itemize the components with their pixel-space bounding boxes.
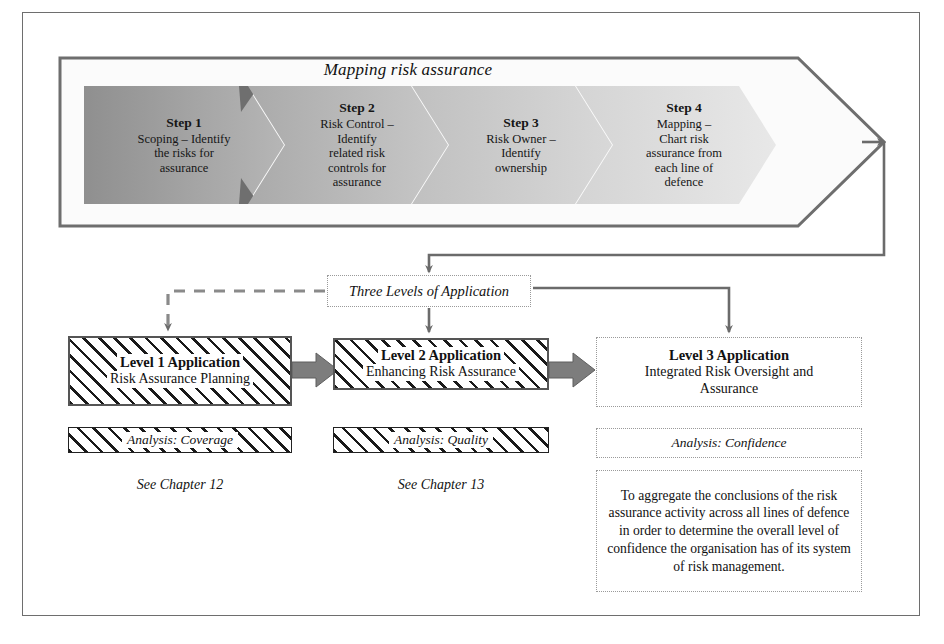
- step-3-line-3: ownership: [495, 161, 547, 176]
- band-title: Mapping risk assurance: [58, 60, 758, 80]
- step-4-line-3: assurance from: [646, 146, 722, 161]
- step-4-line-1: Mapping –: [657, 117, 712, 132]
- diagram-canvas: Mapping risk assurance Step 1 Scoping – …: [0, 0, 944, 644]
- level-1-chapter: See Chapter 12: [68, 477, 292, 493]
- level-1-analysis: Analysis: Coverage: [68, 427, 292, 453]
- level-3-title: Level 3 Application: [669, 347, 789, 364]
- step-2-line-1: Risk Control –: [320, 117, 394, 132]
- step-1-line-3: assurance: [160, 161, 209, 176]
- mapping-risk-assurance-band: Mapping risk assurance Step 1 Scoping – …: [58, 56, 886, 228]
- step-4-line-2: Chart risk: [659, 132, 709, 147]
- step-3-title: Step 3: [503, 115, 539, 131]
- level-3-description: To aggregate the conclusions of the risk…: [596, 470, 862, 592]
- level-3-analysis-text: Analysis: Confidence: [666, 435, 791, 451]
- level-3-description-text: To aggregate the conclusions of the risk…: [607, 487, 851, 575]
- level-1-box[interactable]: Level 1 Application Risk Assurance Plann…: [68, 336, 292, 406]
- level-1-subtitle: Risk Assurance Planning: [107, 371, 253, 388]
- step-3-line-2: Identify: [501, 146, 541, 161]
- level-1-analysis-text: Analysis: Coverage: [122, 432, 238, 448]
- step-4-text: Step 4 Mapping – Chart risk assurance fr…: [576, 86, 776, 204]
- step-1-title: Step 1: [166, 115, 202, 131]
- level-2-subtitle: Enhancing Risk Assurance: [363, 364, 519, 381]
- level-3-box[interactable]: Level 3 Application Integrated Risk Over…: [596, 337, 862, 407]
- step-2-line-3: related risk: [329, 146, 385, 161]
- level-2-chapter: See Chapter 13: [333, 477, 549, 493]
- level-2-analysis-text: Analysis: Quality: [389, 432, 493, 448]
- step-3-line-1: Risk Owner –: [486, 132, 555, 147]
- step-2-title: Step 2: [339, 100, 375, 116]
- level-3-subtitle: Integrated Risk Oversight and Assurance: [597, 364, 861, 398]
- level-3-analysis: Analysis: Confidence: [596, 428, 862, 458]
- level-1-title: Level 1 Application: [117, 354, 243, 371]
- three-levels-text: Three Levels of Application: [349, 283, 509, 300]
- step-4-line-5: defence: [665, 175, 704, 190]
- step-2-line-4: controls for: [328, 161, 386, 176]
- step-4-title: Step 4: [666, 100, 702, 116]
- step-4-line-4: each line of: [655, 161, 713, 176]
- three-levels-of-application-label: Three Levels of Application: [327, 275, 531, 307]
- level-2-box[interactable]: Level 2 Application Enhancing Risk Assur…: [333, 338, 549, 390]
- level-2-title: Level 2 Application: [378, 347, 504, 364]
- step-2-line-5: assurance: [333, 175, 382, 190]
- level-2-analysis: Analysis: Quality: [333, 427, 549, 453]
- step-1-line-2: the risks for: [154, 146, 214, 161]
- step-chevron-4: Step 4 Mapping – Chart risk assurance fr…: [576, 86, 776, 204]
- step-2-line-2: Identify: [337, 132, 377, 147]
- step-1-line-1: Scoping – Identify: [137, 132, 230, 147]
